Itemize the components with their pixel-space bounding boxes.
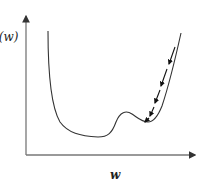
x-axis-label: w: [110, 169, 120, 181]
loss-curve: [48, 31, 181, 137]
diagram-canvas: J(w) w: [0, 0, 212, 188]
loss-landscape-figure: [0, 0, 212, 188]
y-axis-label: J(w): [0, 31, 18, 43]
